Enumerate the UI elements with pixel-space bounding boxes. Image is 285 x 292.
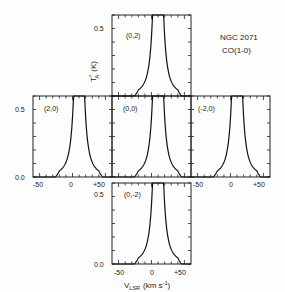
x-axis-label: VLSR(km s-1) [124,280,171,291]
panel-label-left: (2,0) [44,105,58,113]
x-tick-right-p50: +50 [253,181,265,188]
spectra-grid: NGC 2071 CO(1-0) (0,2) (2,0) (0,0) (-2,0… [0,0,285,292]
x-tick-right-0: 0 [229,181,233,188]
panel-label-top: (0,2) [126,32,140,40]
chart-title: NGC 2071 [220,33,258,42]
y-tick-bottom-00: 0.0 [94,261,104,268]
panel-label-center: (0,0) [123,105,137,113]
panel-label-right: (-2,0) [198,105,215,113]
y-axis-label: T*A(K) [88,61,100,82]
x-tick-bottom-p50: +50 [174,269,186,276]
x-tick-left-p50: +50 [93,181,105,188]
chart-subtitle: CO(1-0) [222,46,251,55]
x-tick-right-m50: -50 [193,181,203,188]
svg-text:T*A(K): T*A(K) [88,61,100,82]
x-tick-bottom-0: 0 [150,269,154,276]
y-tick-bottom-05: 0.5 [94,191,104,198]
x-tick-bottom-m50: -50 [114,269,124,276]
spectrum-line [112,15,191,96]
y-tick-top-05: 0.5 [94,25,104,32]
x-tick-left-m50: -50 [33,181,43,188]
panel-label-bottom: (0,-2) [124,191,141,199]
y-tick-left-05: 0.5 [15,106,25,113]
x-tick-left-0: 0 [69,181,73,188]
y-tick-left-00: 0.0 [15,174,25,181]
